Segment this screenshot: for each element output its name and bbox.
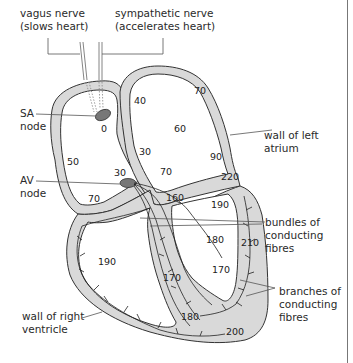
wall-left-atrium-label-2: atrium — [264, 142, 299, 154]
time-ra-top: 40 — [134, 95, 146, 106]
time-ra-left: 50 — [67, 156, 79, 167]
wall-left-atrium-label-1: wall of left — [264, 129, 319, 141]
vagus-pointer — [48, 38, 80, 54]
time-rv-mid: 190 — [98, 256, 116, 267]
time-lv-mid: 180 — [206, 234, 224, 245]
av-node — [120, 179, 136, 188]
sa-label-2: node — [20, 120, 46, 132]
bundles-label-3: fibres — [265, 242, 294, 254]
time-lv-septum-top: 160 — [166, 192, 184, 203]
time-lv-lower: 170 — [212, 264, 230, 275]
sympathetic-label-2: (accelerates heart) — [115, 20, 215, 32]
bundles-label-1: bundles of — [265, 216, 320, 228]
time-lv-upper: 190 — [211, 199, 229, 210]
time-septum-low: 170 — [163, 272, 181, 283]
time-av-above: 30 — [114, 167, 126, 178]
sa-label-1: SA — [20, 107, 35, 119]
time-ra-bottom: 70 — [88, 193, 100, 204]
time-la-mid: 60 — [174, 123, 186, 134]
branches-label-1: branches of — [279, 285, 341, 297]
av-label-1: AV — [20, 174, 35, 186]
bundles-label-2: conducting — [265, 229, 323, 241]
time-rv-bottom: 180 — [181, 311, 199, 322]
time-apex: 200 — [226, 326, 244, 337]
sympathetic-label-1: sympathetic nerve — [115, 7, 214, 19]
branches-label-3: fibres — [279, 311, 308, 323]
time-la-right: 90 — [210, 151, 222, 162]
branches-label-2: conducting — [279, 298, 337, 310]
wall-right-ventricle-label-1: wall of right — [22, 310, 84, 322]
vagus-label-1: vagus nerve — [20, 7, 85, 19]
time-interatrial-low: 70 — [160, 166, 172, 177]
wall-right-ventricle-label-2: ventricle — [22, 323, 68, 335]
time-lv-wall-top: 220 — [221, 171, 239, 182]
av-label-2: node — [20, 187, 46, 199]
sympathetic-pointer — [102, 38, 163, 54]
time-lv-wall-mid: 210 — [241, 237, 259, 248]
time-septum-atrial: 30 — [139, 146, 151, 157]
vagus-label-2: (slows heart) — [20, 20, 88, 32]
wall-right-ventricle-pointer — [82, 312, 102, 318]
heart-conduction-diagram: vagus nerve (slows heart) sympathetic ne… — [0, 0, 353, 363]
time-la-top: 70 — [194, 85, 206, 96]
time-sa: 0 — [101, 123, 107, 134]
